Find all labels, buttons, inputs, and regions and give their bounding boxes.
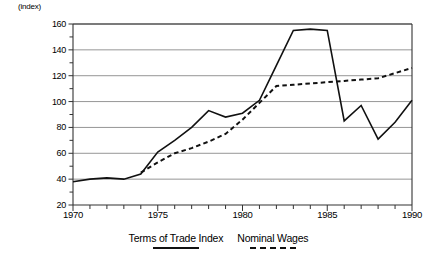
x-axis-tick-label: 1985 (307, 209, 347, 220)
legend-label: Nominal Wages (237, 232, 308, 244)
y-axis-tick-label: 40 (36, 174, 66, 184)
y-axis-tick-label: 80 (36, 122, 66, 132)
chart-legend: Terms of Trade IndexNominal Wages (0, 232, 437, 253)
x-axis-tick-label: 1970 (53, 209, 93, 220)
legend-item: Terms of Trade Index (129, 232, 224, 253)
y-axis-tick-label: 140 (36, 45, 66, 55)
y-axis-tick-label: 100 (36, 97, 66, 107)
legend-swatch-solid (153, 247, 199, 253)
y-axis-tick-labels: 20406080100120140160 (34, 0, 66, 259)
legend-label: Terms of Trade Index (129, 232, 224, 244)
series-line-terms-of-trade-index (73, 29, 412, 182)
x-axis-tick-label: 1980 (223, 209, 263, 220)
y-axis-tick-label: 120 (36, 71, 66, 81)
y-axis-tick-label: 60 (36, 148, 66, 158)
x-axis-tick-label: 1975 (138, 209, 178, 220)
x-axis-tick-label: 1990 (392, 209, 432, 220)
series-line-nominal-wages (141, 68, 412, 173)
y-axis-tick-label: 160 (36, 19, 66, 29)
legend-item: Nominal Wages (237, 232, 308, 253)
legend-swatch-dashed (250, 247, 296, 253)
